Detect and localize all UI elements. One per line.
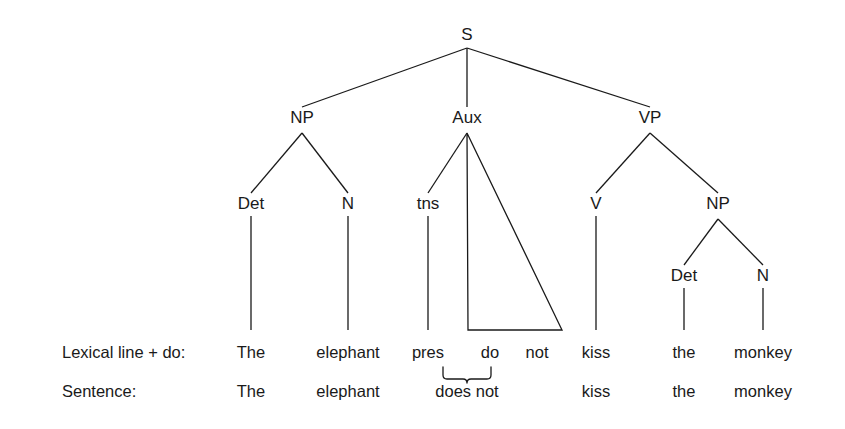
node-aux: Aux bbox=[452, 108, 482, 127]
node-n-subject: N bbox=[342, 194, 354, 213]
edge-vp-np bbox=[650, 133, 718, 193]
lexical-word-kiss: kiss bbox=[582, 343, 610, 361]
lexical-word-the-object: the bbox=[673, 343, 696, 361]
edge-vp-v bbox=[596, 133, 650, 193]
edge-np-det bbox=[251, 133, 302, 193]
edge-np-n bbox=[302, 133, 348, 193]
contraction-brace bbox=[443, 367, 491, 383]
lexical-word-monkey: monkey bbox=[734, 343, 793, 361]
edge-s-np bbox=[302, 48, 467, 107]
node-vp: VP bbox=[639, 108, 662, 127]
node-v: V bbox=[590, 194, 602, 213]
node-tns: tns bbox=[417, 194, 440, 213]
sentence-word-does-not: does not bbox=[435, 382, 499, 400]
lexical-word-elephant: elephant bbox=[316, 343, 380, 361]
row-label-lexical: Lexical line + do: bbox=[62, 343, 185, 361]
syntax-tree-diagram: S NP Aux VP Det N tns V NP Det N Lexical… bbox=[0, 0, 845, 429]
edge-np-object-det bbox=[684, 219, 718, 265]
edge-s-vp bbox=[467, 48, 650, 107]
row-label-sentence: Sentence: bbox=[62, 382, 136, 400]
sentence-word-elephant: elephant bbox=[316, 382, 380, 400]
aux-triangle bbox=[467, 133, 562, 330]
lexical-word-pres: pres bbox=[412, 343, 444, 361]
node-s: S bbox=[461, 25, 472, 44]
lexical-word-do: do bbox=[481, 343, 499, 361]
node-det-object: Det bbox=[671, 266, 698, 285]
sentence-word-monkey: monkey bbox=[734, 382, 793, 400]
edge-np-object-n bbox=[718, 219, 763, 265]
node-n-object: N bbox=[757, 266, 769, 285]
node-np-subject: NP bbox=[290, 108, 314, 127]
lexical-word-not: not bbox=[526, 343, 549, 361]
edge-aux-tns bbox=[428, 133, 467, 193]
sentence-word-the: The bbox=[237, 382, 265, 400]
lexical-word-the: The bbox=[237, 343, 265, 361]
node-np-object: NP bbox=[706, 194, 730, 213]
sentence-word-kiss: kiss bbox=[582, 382, 610, 400]
sentence-word-the-object: the bbox=[673, 382, 696, 400]
node-det-subject: Det bbox=[238, 194, 265, 213]
